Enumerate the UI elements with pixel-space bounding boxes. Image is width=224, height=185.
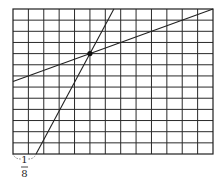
grid-border (13, 9, 213, 154)
grid-diagram (0, 0, 224, 185)
grid-lines (13, 9, 213, 154)
fraction-denominator: 8 (19, 169, 31, 179)
intersection-point (87, 51, 92, 56)
plot-lines (13, 9, 213, 154)
fraction-numerator: 1 (19, 155, 31, 165)
